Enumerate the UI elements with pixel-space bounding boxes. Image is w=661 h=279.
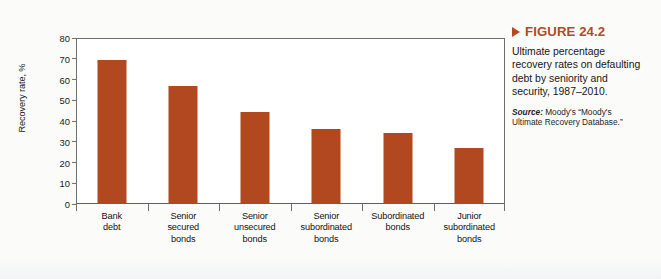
x-axis-category-label: Juniorsubordinatedbonds <box>428 211 512 245</box>
bar-chart: Recovery rate, % 01020304050607080 Bankd… <box>0 0 500 279</box>
triangle-right-icon <box>512 27 520 37</box>
bar[interactable] <box>455 148 484 204</box>
y-axis-tick-label: 70 <box>60 53 76 64</box>
figure-header: FIGURE 24.2 <box>512 24 652 39</box>
bar-slot <box>148 38 220 204</box>
y-axis-tick-label: 10 <box>60 178 76 189</box>
y-axis-tick-label: 30 <box>60 136 76 147</box>
x-axis-category-line: Junior <box>428 211 512 222</box>
figure-caption-panel: FIGURE 24.2 Ultimate percentage recovery… <box>512 24 652 128</box>
bar[interactable] <box>383 133 412 204</box>
x-axis-tick <box>504 204 505 211</box>
y-axis-tick-label: 0 <box>65 199 76 210</box>
figure-number-label: FIGURE 24.2 <box>525 24 605 39</box>
x-axis-category-line: subordinated <box>428 222 512 233</box>
source-word-label: Source: <box>512 107 543 117</box>
x-axis-tick <box>362 204 363 211</box>
y-axis-tick-label: 50 <box>60 95 76 106</box>
bar[interactable] <box>240 112 269 204</box>
x-axis-tick <box>219 204 220 211</box>
bar[interactable] <box>97 60 126 204</box>
x-axis-category-line: bonds <box>428 234 512 245</box>
x-axis-labels: BankdebtSeniorsecuredbondsSeniorunsecure… <box>76 211 505 271</box>
y-axis-tick-label: 40 <box>60 116 76 127</box>
bar-slot <box>434 38 506 204</box>
bar-slot <box>76 38 148 204</box>
x-axis-tick <box>434 204 435 211</box>
y-axis-tick-label: 60 <box>60 74 76 85</box>
bar[interactable] <box>169 86 198 204</box>
figure-caption-text: Ultimate percentage recovery rates on de… <box>512 45 644 99</box>
x-axis-tick <box>76 204 77 211</box>
x-axis-category-line: bonds <box>285 234 369 245</box>
x-axis-tick <box>148 204 149 211</box>
x-axis-ticks <box>76 204 505 211</box>
bar-slot <box>219 38 291 204</box>
y-axis-title: Recovery rate, % <box>17 43 27 153</box>
y-axis-tick-label: 20 <box>60 157 76 168</box>
y-axis-tick-label: 80 <box>60 33 76 44</box>
figure-source: Source: Moody's “Moody's Ultimate Recove… <box>512 107 642 128</box>
x-axis-tick <box>291 204 292 211</box>
bar[interactable] <box>312 129 341 204</box>
bar-slot <box>362 38 434 204</box>
bars-group <box>76 38 505 204</box>
bar-slot <box>291 38 363 204</box>
figure-24-2: Recovery rate, % 01020304050607080 Bankd… <box>0 0 661 279</box>
